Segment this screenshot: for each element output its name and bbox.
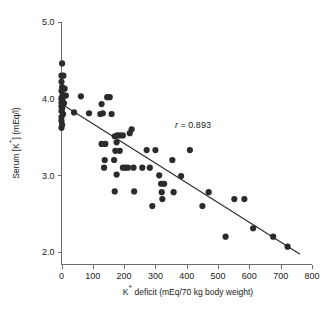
data-point [250,225,256,231]
annotation-group: r = 0.893 [175,120,211,130]
data-point [60,73,66,79]
x-tick-label: 200 [117,271,132,281]
x-tick-label: 500 [211,271,226,281]
data-point [161,181,167,187]
data-point [139,165,145,171]
data-point [97,111,103,117]
data-point [187,147,193,153]
data-point [114,171,120,177]
data-point [112,188,118,194]
data-point [71,109,77,115]
data-point [241,196,247,202]
y-tick-label: 2.0 [42,247,55,257]
axis-title-suffix: deficit (mEq/70 kg body weight) [132,287,253,297]
data-point [156,172,162,178]
data-point [117,148,123,154]
data-point [199,203,205,209]
axis-title-prefix: Serum [K [11,143,21,179]
x-axis-ticks: 0100200300400500600700800 [59,265,320,281]
data-point [58,79,64,85]
data-point [59,60,65,66]
correlation-value: = 0.893 [178,120,211,130]
y-tick-label: 4.0 [42,94,55,104]
data-point [78,93,84,99]
y-tick-label: 5.0 [42,17,55,27]
x-tick-label: 0 [59,271,64,281]
data-point [131,188,137,194]
x-axis-title: K+ deficit (mEq/70 kg body weight) [123,283,254,298]
data-point [159,196,165,202]
data-point [129,126,135,132]
data-point [120,132,126,138]
data-point [130,165,136,171]
data-point [170,189,176,195]
x-tick-label: 300 [148,271,163,281]
x-tick-label: 100 [85,271,100,281]
x-tick-label: 800 [304,271,319,281]
data-point [152,147,158,153]
data-point [102,141,108,147]
data-point [58,125,64,131]
data-point [231,196,237,202]
x-tick-label: 700 [273,271,288,281]
data-point [178,173,184,179]
data-point [109,111,115,117]
data-point [125,165,131,171]
scatter-plot-figure: 2.03.04.05.0 0100200300400500600700800 r… [0,0,331,314]
data-point [284,244,290,250]
correlation-annotation: r = 0.893 [175,120,211,130]
data-point [159,189,165,195]
data-point [86,110,92,116]
y-axis-title: Serum [K+] (mEq/l) [7,107,22,179]
data-point [222,234,228,240]
data-point [101,165,107,171]
data-point [114,139,120,145]
y-tick-label: 3.0 [42,171,55,181]
data-point [147,165,153,171]
x-tick-label: 400 [179,271,194,281]
data-point [98,101,104,107]
axis-title-suffix: ] (mEq/l) [11,107,21,139]
data-point [102,157,108,163]
y-axis-ticks: 2.03.04.05.0 [42,17,62,257]
x-tick-label: 600 [242,271,257,281]
data-point [206,189,212,195]
data-point [270,234,276,240]
data-point [149,203,155,209]
data-points-group [58,60,290,249]
data-point [144,147,150,153]
plot-canvas: 2.03.04.05.0 0100200300400500600700800 r… [0,0,331,314]
data-point [107,94,113,100]
data-point [111,157,117,163]
data-point [169,157,175,163]
